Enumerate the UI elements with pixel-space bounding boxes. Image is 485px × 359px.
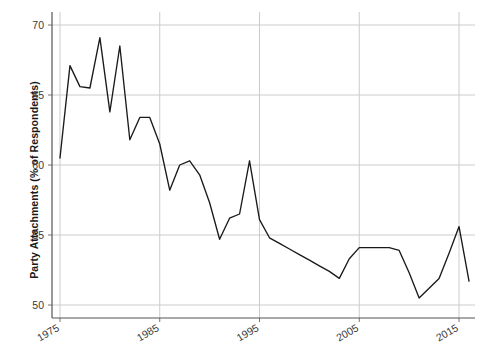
y-tick-label: 50	[32, 299, 44, 311]
x-tick-label: 1995	[234, 321, 260, 343]
y-tick-label: 70	[32, 19, 44, 31]
gridlines	[52, 12, 475, 318]
line-chart: Party Attachments (% of Respondents) 505…	[0, 0, 485, 359]
x-tick-label: 1985	[135, 321, 161, 343]
x-tick-label: 2005	[334, 321, 360, 343]
y-tick-label: 55	[32, 229, 44, 241]
y-tick-label: 60	[32, 159, 44, 171]
x-tick-label: 1975	[35, 321, 61, 343]
y-tick-label: 65	[32, 89, 44, 101]
x-axis-ticks: 19751985199520052015	[35, 318, 460, 343]
plot-area: 5055606570 19751985199520052015	[0, 0, 485, 359]
data-line-party-attachments	[60, 38, 469, 298]
y-axis-ticks: 5055606570	[32, 19, 52, 311]
x-tick-label: 2015	[434, 321, 460, 343]
